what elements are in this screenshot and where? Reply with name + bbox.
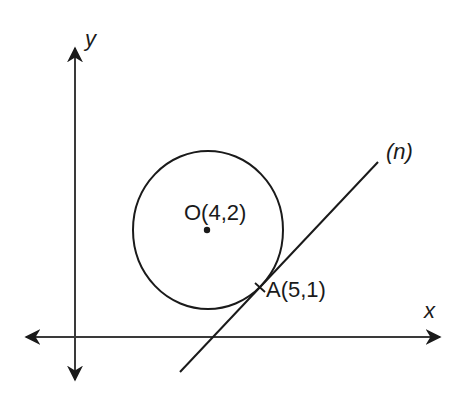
center-point — [204, 227, 210, 233]
line-n-label: (n) — [386, 139, 413, 164]
tangent-line — [180, 162, 378, 372]
y-axis-label: y — [83, 26, 98, 51]
x-axis-label: x — [423, 298, 436, 323]
tangent-point-label: A(5,1) — [266, 277, 326, 302]
center-label: O(4,2) — [184, 200, 246, 225]
diagram-canvas: y x O(4,2) A(5,1) (n) — [0, 0, 462, 397]
